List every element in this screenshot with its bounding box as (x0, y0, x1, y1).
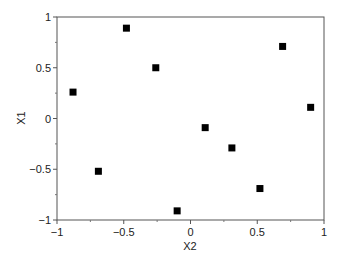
x-tick-label: −1 (51, 226, 64, 238)
y-axis-label: X1 (15, 111, 27, 124)
data-point-square (174, 207, 181, 214)
data-point-square (279, 43, 286, 50)
y-tick-label: 0.5 (36, 62, 51, 74)
data-point-square (95, 168, 102, 175)
data-point-square (70, 89, 77, 96)
y-tick-label: −0.5 (29, 163, 51, 175)
y-axis-ticks: −1−0.500.51 (29, 11, 57, 226)
y-tick-label: −1 (38, 214, 51, 226)
y-tick-label: 1 (45, 11, 51, 23)
x-tick-label: 0.5 (250, 226, 265, 238)
data-point-square (152, 64, 159, 71)
x-axis-label: X2 (183, 240, 196, 252)
y-tick-label: 0 (45, 113, 51, 125)
x-tick-label: 0 (187, 226, 193, 238)
data-points (70, 25, 315, 215)
x-axis-ticks: −1−0.500.51 (51, 220, 327, 238)
data-point-square (202, 124, 209, 131)
data-point-square (228, 144, 235, 151)
data-point-square (256, 185, 263, 192)
data-point-square (123, 25, 130, 32)
data-point-square (307, 104, 314, 111)
x-tick-label: 1 (321, 226, 327, 238)
x-tick-label: −0.5 (113, 226, 135, 238)
scatter-chart: −1−0.500.51 −1−0.500.51 X2 X1 (0, 0, 343, 265)
